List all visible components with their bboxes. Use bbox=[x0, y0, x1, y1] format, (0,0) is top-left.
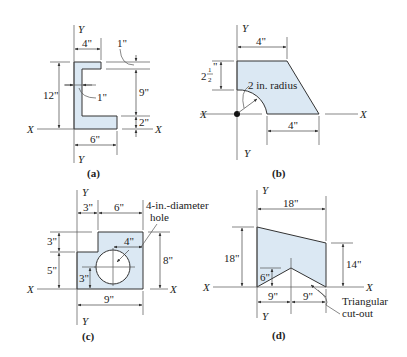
y-axis-label-top: Y bbox=[78, 23, 86, 35]
dim-top-width-label: 4" bbox=[256, 35, 266, 47]
dim-inner-label: 9" bbox=[139, 86, 149, 98]
svg-text:2: 2 bbox=[208, 76, 212, 84]
radius-label: 2 in. radius bbox=[248, 79, 297, 91]
x-axis-label-right: X bbox=[365, 281, 374, 293]
x-axis-label-left: X bbox=[202, 281, 211, 293]
cutout-label-line1: Triangular bbox=[342, 295, 388, 307]
dim-flange-top-label: 1" bbox=[117, 37, 127, 49]
y-axis-label-top: Y bbox=[82, 186, 90, 198]
y-axis-label-bottom: Y bbox=[78, 153, 86, 165]
dim-half-right-label: 9" bbox=[303, 290, 313, 302]
x-axis-label-left: X bbox=[26, 283, 35, 295]
dim-top-width-label: 4" bbox=[82, 37, 92, 49]
dim-height-label: 12" bbox=[43, 89, 59, 101]
hole-label-line2: hole bbox=[150, 211, 169, 223]
caption-b: (b) bbox=[272, 167, 286, 180]
panel-c: Y Y X X 3" 6" 4-in.-diameter hole 4" 3" … bbox=[26, 186, 209, 343]
dim-hole-height-label: 3" bbox=[79, 272, 89, 284]
panel-a: Y Y X X 4" 12" 1" 1" 9" 2" 6" (a) bbox=[26, 23, 163, 180]
x-axis-label-right: X bbox=[169, 283, 178, 295]
y-axis-label-top: Y bbox=[262, 184, 270, 196]
section-diagrams: Y Y X X 4" 12" 1" 1" 9" 2" 6" (a) bbox=[0, 0, 407, 357]
caption-d: (d) bbox=[272, 329, 286, 342]
x-axis-label-left: X bbox=[26, 123, 35, 135]
dim-bottom-width-label: 4" bbox=[288, 119, 298, 131]
caption-c: (c) bbox=[82, 330, 95, 343]
dim-step-label: 3" bbox=[47, 235, 57, 247]
x-axis-label-right: X bbox=[359, 108, 368, 120]
dim-height-label: 8" bbox=[163, 254, 173, 266]
panel-b: Y Y X X 4" 2 1 2 " 2 in. radius 4" (b) bbox=[199, 22, 368, 180]
svg-text:1: 1 bbox=[208, 66, 212, 74]
svg-text:": " bbox=[213, 60, 218, 72]
caption-a: (a) bbox=[87, 167, 100, 180]
y-axis-label-top: Y bbox=[242, 22, 250, 34]
hole-label-line1: 4-in.-diameter bbox=[146, 199, 209, 211]
dim-left-top-label: 3" bbox=[83, 201, 93, 213]
dim-width-label: 9" bbox=[104, 293, 114, 305]
y-axis-label-bottom: Y bbox=[244, 147, 252, 159]
dim-left-height-whole: 2 bbox=[201, 70, 207, 82]
dim-web-label: 1" bbox=[97, 91, 107, 103]
dim-right-height-label: 14" bbox=[346, 258, 362, 270]
dim-bottom-flange-label: 2" bbox=[139, 116, 149, 128]
y-axis-label-bottom: Y bbox=[262, 310, 270, 322]
dim-bottom-width-label: 6" bbox=[90, 133, 100, 145]
x-axis-label-right: X bbox=[154, 123, 163, 135]
dim-left-height-label: 18" bbox=[224, 252, 240, 264]
dim-top-width-label: 18" bbox=[283, 197, 299, 209]
x-axis-label-left: X bbox=[199, 108, 208, 120]
dim-lower-label: 5" bbox=[47, 264, 57, 276]
dim-cutout-height-label: 6" bbox=[260, 271, 270, 283]
y-axis-label-bottom: Y bbox=[82, 315, 90, 327]
cutout-label-line2: cut-out bbox=[342, 307, 373, 319]
dim-right-top-label: 6" bbox=[114, 201, 124, 213]
dim-hole-offset-label: 4" bbox=[124, 235, 134, 247]
panel-d: Y Y X X 18" 18" 14" 6" 9" 9" Triangular … bbox=[202, 184, 388, 342]
dim-half-left-label: 9" bbox=[268, 290, 278, 302]
channel-section-shape bbox=[74, 62, 117, 129]
